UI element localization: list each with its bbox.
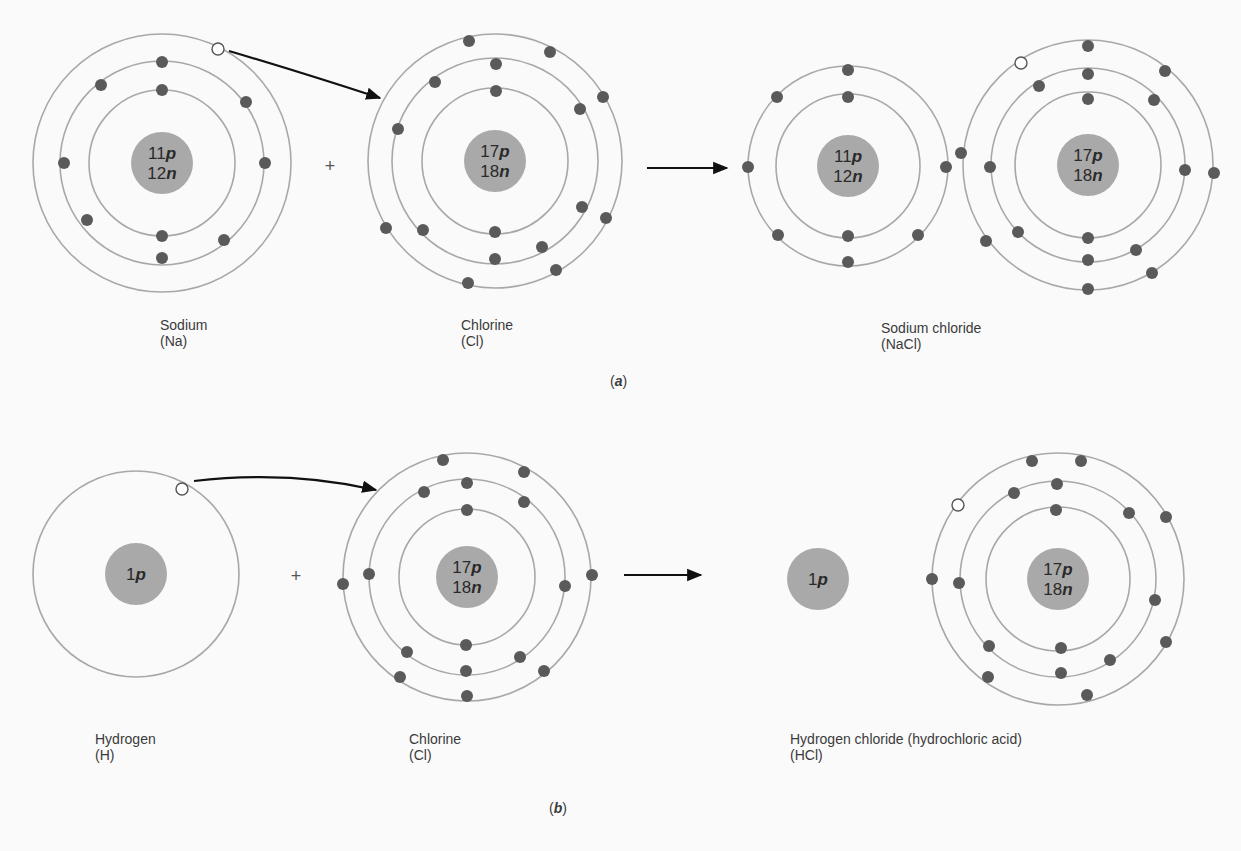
electron	[156, 252, 168, 264]
ionic-covalent-bond-diagram: 11p12n17p18n11p12n17p18n+ 1p17p18n1p17p1…	[0, 0, 1241, 851]
electron	[574, 103, 586, 115]
electron	[463, 35, 475, 47]
electron	[953, 577, 965, 589]
electron	[1104, 654, 1116, 666]
chlorine-label-a: Chlorine (Cl)	[461, 317, 513, 349]
electron	[489, 226, 501, 238]
electron	[1082, 93, 1094, 105]
electron	[489, 253, 501, 265]
electron	[1082, 254, 1094, 266]
electron	[1149, 594, 1161, 606]
hydrogen-label: Hydrogen (H)	[95, 731, 156, 763]
electron	[1082, 40, 1094, 52]
atom-sodium: 11p12n	[33, 34, 291, 292]
electron	[586, 569, 598, 581]
part-a-letter: a	[615, 373, 623, 389]
electron	[337, 578, 349, 590]
electron	[401, 646, 413, 658]
electron	[460, 665, 472, 677]
electron	[1033, 80, 1045, 92]
electron-transfer-arrow	[194, 477, 376, 490]
electron	[1208, 167, 1220, 179]
nucleus-label-p: 1p	[808, 570, 828, 589]
electron	[1012, 226, 1024, 238]
electron	[518, 466, 530, 478]
electron	[417, 224, 429, 236]
electron	[926, 573, 938, 585]
electron	[1008, 487, 1020, 499]
chlorine-symbol: (Cl)	[461, 333, 513, 349]
electron	[955, 147, 967, 159]
electron	[1051, 478, 1063, 490]
electron	[1148, 94, 1160, 106]
electron	[1160, 636, 1172, 648]
plus-sign: +	[291, 566, 302, 586]
nucleus-label-n: 18n	[1073, 166, 1102, 185]
sodium-chloride-name: Sodium chloride	[881, 320, 981, 336]
electron	[600, 212, 612, 224]
electron	[81, 214, 93, 226]
electron	[461, 504, 473, 516]
hydrogen-symbol: (H)	[95, 747, 156, 763]
atom-hydrogen: 1p	[33, 471, 239, 677]
electron	[842, 230, 854, 242]
nucleus	[1057, 134, 1119, 196]
hydrogen-chloride-label: Hydrogen chloride (hydrochloric acid) (H…	[790, 731, 1022, 763]
electron	[742, 161, 754, 173]
electron	[538, 665, 550, 677]
transferred-electron	[1015, 57, 1027, 69]
electron	[550, 264, 562, 276]
electron	[363, 568, 375, 580]
hydrogen-chloride-name: Hydrogen chloride (hydrochloric acid)	[790, 731, 1022, 747]
electron	[437, 454, 449, 466]
atom-chlorine: 17p18n	[337, 453, 598, 702]
chlorine-name: Chlorine	[461, 317, 513, 333]
electron	[940, 161, 952, 173]
nucleus-label-p: 17p	[1043, 560, 1072, 579]
plus-sign: +	[325, 156, 336, 176]
sodium-name: Sodium	[160, 317, 207, 333]
nucleus-label-p: 11p	[834, 147, 862, 166]
nucleus-label-p: 17p	[1073, 146, 1102, 165]
hydrogen-name: Hydrogen	[95, 731, 156, 747]
electron	[240, 96, 252, 108]
nucleus	[1027, 548, 1089, 610]
nucleus-label-n: 18n	[480, 162, 509, 181]
part-b-hydrogen-chloride-reaction: 1p17p18n1p17p18n+	[33, 453, 1184, 705]
electron	[1081, 689, 1093, 701]
electron	[514, 651, 526, 663]
electron	[536, 241, 548, 253]
electron	[58, 157, 70, 169]
electron	[597, 91, 609, 103]
electron	[559, 580, 571, 592]
electron	[518, 496, 530, 508]
electron	[95, 79, 107, 91]
electron	[490, 58, 502, 70]
electron	[1123, 507, 1135, 519]
diagram-canvas: 11p12n17p18n11p12n17p18n+ 1p17p18n1p17p1…	[0, 0, 1241, 851]
electron	[418, 486, 430, 498]
nucleus-label-n: 12n	[833, 167, 862, 186]
electron	[1082, 283, 1094, 295]
electron	[490, 85, 502, 97]
electron	[984, 161, 996, 173]
electron	[1179, 164, 1191, 176]
electron	[842, 91, 854, 103]
atom-chlorine: 17p18n	[368, 34, 622, 289]
electron	[1075, 455, 1087, 467]
electron	[460, 639, 472, 651]
chlorine-name: Chlorine	[409, 731, 461, 747]
part-b-letter: b	[554, 800, 563, 816]
sodium-symbol: (Na)	[160, 333, 207, 349]
electron	[259, 157, 271, 169]
electron	[1050, 504, 1062, 516]
electron	[1055, 667, 1067, 679]
electron	[982, 671, 994, 683]
chlorine-label-b: Chlorine (Cl)	[409, 731, 461, 763]
atom-sodium-ion: 11p12n	[742, 64, 952, 268]
transferred-electron	[952, 499, 964, 511]
electron	[544, 46, 556, 58]
electron	[1082, 232, 1094, 244]
electron	[1026, 455, 1038, 467]
electron	[983, 640, 995, 652]
